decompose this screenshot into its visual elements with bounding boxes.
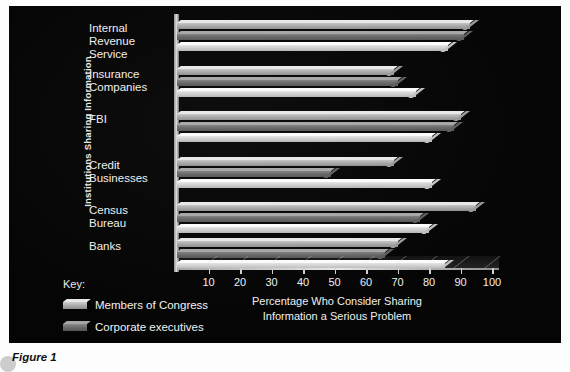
bar: [177, 135, 432, 142]
x-axis-tick: [335, 268, 337, 274]
legend-swatch: [63, 324, 87, 331]
x-axis-tick: [429, 268, 431, 274]
bar-face: [177, 44, 448, 51]
legend-item: School superintendents: [63, 338, 253, 343]
category-label: Internal Revenue Service: [89, 22, 169, 61]
bar-face: [177, 215, 420, 222]
x-axis-line: [177, 268, 499, 270]
category-label: FBI: [89, 113, 169, 126]
bar: [177, 251, 385, 258]
x-axis-tick: [461, 268, 463, 274]
bar-top-highlight: [177, 66, 398, 69]
plot-area: 102030405060708090100: [177, 16, 497, 268]
bar-top-highlight: [177, 168, 335, 171]
bar-face: [177, 181, 432, 188]
bar: [177, 33, 464, 40]
bar: [177, 215, 420, 222]
bar-top-highlight: [177, 88, 420, 91]
bar: [177, 68, 394, 75]
bar-top-highlight: [177, 224, 433, 227]
legend-heading: Key:: [63, 278, 253, 290]
bar-top-highlight: [177, 31, 467, 34]
bar-top-highlight: [177, 260, 449, 263]
bar-top-highlight: [177, 20, 474, 23]
bar: [177, 113, 461, 120]
bar-face: [177, 68, 394, 75]
legend: Key: Members of CongressCorporate execut…: [63, 278, 253, 343]
bar-top-highlight: [177, 213, 423, 216]
x-axis-tick-label: 100: [483, 276, 501, 288]
bar-face: [177, 22, 470, 29]
x-axis-tick-label: 70: [391, 276, 403, 288]
bar-face: [177, 159, 394, 166]
legend-swatch-face: [63, 302, 87, 309]
category-label: Census Bureau: [89, 204, 169, 230]
figure-caption: Figure 1: [12, 351, 57, 363]
bar-top-highlight: [177, 111, 464, 114]
bar-face: [177, 204, 476, 211]
bar: [177, 159, 394, 166]
x-axis-tick-label: 40: [297, 276, 309, 288]
bar: [177, 22, 470, 29]
x-axis-tick-label: 30: [265, 276, 277, 288]
x-axis-tick-label: 50: [328, 276, 340, 288]
x-axis-tick: [303, 268, 305, 274]
legend-swatch-face: [63, 324, 87, 331]
x-axis-tick-label: 60: [360, 276, 372, 288]
bar-top-highlight: [177, 42, 452, 45]
bar-face: [177, 33, 464, 40]
legend-items: Members of CongressCorporate executivesS…: [63, 294, 253, 343]
x-axis-tick: [366, 268, 368, 274]
x-axis-tick: [240, 268, 242, 274]
bar-face: [177, 251, 385, 258]
x-axis-tick-label: 90: [454, 276, 466, 288]
category-label-column: Internal Revenue ServiceInsurance Compan…: [89, 14, 169, 264]
legend-item-label: Members of Congress: [95, 299, 208, 311]
bar: [177, 44, 448, 51]
bar-face: [177, 90, 416, 97]
bar: [177, 90, 416, 97]
chart-panel: Institutions Sharing Information Interna…: [9, 6, 561, 343]
bar: [177, 181, 432, 188]
bar-face: [177, 170, 331, 177]
legend-swatch-top: [63, 343, 91, 344]
legend-item: Members of Congress: [63, 294, 253, 316]
bar-face: [177, 135, 432, 142]
y-axis-line: [174, 14, 179, 272]
bar-face: [177, 113, 461, 120]
bar-face: [177, 240, 398, 247]
legend-item-label: Corporate executives: [95, 321, 204, 333]
category-label: Banks: [89, 240, 169, 253]
bar-top-highlight: [177, 157, 398, 160]
legend-item: Corporate executives: [63, 316, 253, 338]
bar-top-highlight: [177, 249, 389, 252]
bar-top-highlight: [177, 77, 401, 80]
bar-face: [177, 124, 454, 131]
x-axis-tick: [209, 268, 211, 274]
legend-swatch: [63, 302, 87, 309]
bar-top-highlight: [177, 202, 480, 205]
bar: [177, 124, 454, 131]
legend-swatch-top: [63, 299, 91, 302]
bar-face: [177, 79, 398, 86]
bar-top-highlight: [177, 122, 458, 125]
bar: [177, 240, 398, 247]
x-axis-tick: [398, 268, 400, 274]
x-axis-tick: [272, 268, 274, 274]
bar-top-highlight: [177, 179, 436, 182]
bar: [177, 226, 429, 233]
category-label: Insurance Companies: [89, 68, 169, 94]
bar-face: [177, 226, 429, 233]
bar: [177, 79, 398, 86]
x-axis-tick: [492, 268, 494, 274]
category-label: Credit Businesses: [89, 159, 169, 185]
figure-container: Institutions Sharing Information Interna…: [0, 0, 570, 372]
bar: [177, 170, 331, 177]
bar-top-highlight: [177, 133, 436, 136]
bar-top-highlight: [177, 238, 401, 241]
bar: [177, 204, 476, 211]
x-axis-tick-label: 80: [423, 276, 435, 288]
legend-swatch-top: [63, 321, 91, 324]
